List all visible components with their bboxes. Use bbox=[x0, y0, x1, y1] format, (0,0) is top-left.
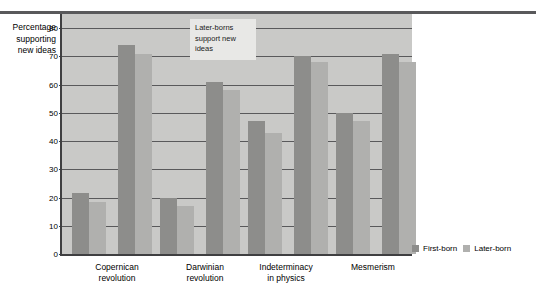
y-axis-title: Percentage supporting new ideas bbox=[0, 22, 56, 57]
y-tick-label-20: 20 bbox=[49, 193, 58, 202]
legend-swatch-first-born-icon bbox=[412, 245, 419, 252]
y-axis-title-line-2: supporting bbox=[0, 34, 56, 46]
annotation-callout: Later-borns support new ideas bbox=[190, 19, 256, 60]
y-tick-mark-30 bbox=[59, 169, 62, 170]
y-tick-label-40: 40 bbox=[49, 137, 58, 146]
y-tick-mark-10 bbox=[59, 226, 62, 227]
annotation-line-2: support new bbox=[195, 34, 251, 45]
bar-0-low-first-born bbox=[72, 193, 89, 254]
bar-2-high-later-born bbox=[311, 62, 328, 254]
y-axis-title-line-1: Percentage bbox=[0, 22, 56, 34]
bar-3-low-later-born bbox=[353, 121, 370, 254]
y-tick-mark-80 bbox=[59, 28, 62, 29]
x-category-label-0: Copernican revolution bbox=[70, 262, 164, 284]
x-category-label-2-line-1: Indeterminacy bbox=[234, 262, 338, 273]
bar-chart-figure: Percentage supporting new ideas 01020304… bbox=[0, 0, 536, 305]
y-axis-title-line-3: new ideas bbox=[0, 45, 56, 57]
x-category-label-2: Indeterminacy in physics bbox=[234, 262, 338, 284]
bar-3-high-first-born bbox=[382, 54, 399, 254]
bar-0-high-later-born bbox=[135, 54, 152, 254]
bar-2-low-first-born bbox=[248, 121, 265, 254]
legend-label-first-born: First-born bbox=[423, 244, 457, 253]
y-tick-label-10: 10 bbox=[49, 221, 58, 230]
y-tick-label-80: 80 bbox=[49, 24, 58, 33]
y-tick-label-0: 0 bbox=[54, 250, 58, 259]
legend-entry-later-born: Later-born bbox=[463, 244, 511, 253]
bar-0-high-first-born bbox=[118, 45, 135, 254]
bar-3-high-later-born bbox=[399, 62, 416, 254]
x-category-label-0-line-2: revolution bbox=[70, 273, 164, 284]
x-category-label-3: Mesmerism bbox=[326, 262, 420, 273]
bar-1-low-later-born bbox=[177, 206, 194, 254]
x-category-label-3-line-1: Mesmerism bbox=[326, 262, 420, 273]
legend-swatch-later-born-icon bbox=[463, 245, 470, 252]
bar-3-low-first-born bbox=[336, 113, 353, 254]
legend-label-later-born: Later-born bbox=[474, 244, 511, 253]
y-tick-label-50: 50 bbox=[49, 108, 58, 117]
y-tick-mark-50 bbox=[59, 113, 62, 114]
bar-2-high-first-born bbox=[294, 56, 311, 254]
bar-0-low-later-born bbox=[89, 202, 106, 254]
legend-entry-first-born: First-born bbox=[412, 244, 457, 253]
y-tick-mark-20 bbox=[59, 198, 62, 199]
bar-1-high-later-born bbox=[223, 90, 240, 254]
y-tick-label-70: 70 bbox=[49, 52, 58, 61]
y-tick-mark-60 bbox=[59, 85, 62, 86]
y-tick-label-60: 60 bbox=[49, 80, 58, 89]
bar-2-low-later-born bbox=[265, 133, 282, 254]
y-tick-label-30: 30 bbox=[49, 165, 58, 174]
y-tick-mark-40 bbox=[59, 141, 62, 142]
y-tick-mark-0 bbox=[59, 254, 62, 255]
x-category-label-0-line-1: Copernican bbox=[70, 262, 164, 273]
y-tick-mark-70 bbox=[59, 56, 62, 57]
bar-1-high-first-born bbox=[206, 82, 223, 254]
chart-legend: First-born Later-born bbox=[412, 244, 511, 253]
gridline-60 bbox=[62, 85, 412, 86]
annotation-line-3: ideas bbox=[195, 44, 251, 55]
bar-1-low-first-born bbox=[160, 198, 177, 254]
x-category-label-2-line-2: in physics bbox=[234, 273, 338, 284]
annotation-line-1: Later-borns bbox=[195, 23, 251, 34]
